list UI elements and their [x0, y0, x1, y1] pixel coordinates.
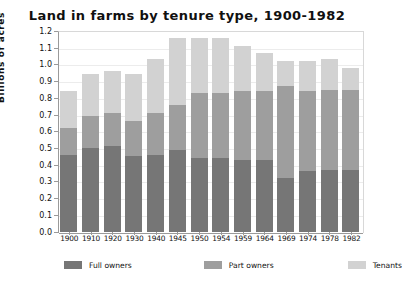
legend-item[interactable]: Tenants [348, 261, 402, 270]
bar-1945 [169, 31, 186, 232]
bar-segment [82, 116, 99, 148]
bar-segment [60, 91, 77, 128]
bar-segment [147, 155, 164, 232]
bar-1982 [342, 31, 359, 232]
x-tick-label: 1900 [60, 234, 77, 243]
bar-segment [191, 38, 208, 93]
x-tick-label: 1930 [125, 234, 142, 243]
y-tick-label: 0.7 [24, 110, 52, 119]
y-tick-label: 0.6 [24, 127, 52, 136]
bar-1910 [82, 31, 99, 232]
y-tick-label: 0.1 [24, 210, 52, 219]
bar-segment [277, 86, 294, 178]
bar-segment [342, 170, 359, 232]
y-tick-label: 1.1 [24, 43, 52, 52]
bar-segment [125, 156, 142, 231]
bar-segment [256, 53, 273, 91]
legend-label: Tenants [373, 261, 402, 270]
bar-1974 [299, 31, 316, 232]
bar-segment [147, 59, 164, 112]
bar-segment [256, 91, 273, 160]
bar-1930 [125, 31, 142, 232]
bar-segment [169, 150, 186, 232]
x-tick-label: 1945 [169, 234, 186, 243]
y-tick-label: 0.2 [24, 194, 52, 203]
bar-1969 [277, 31, 294, 232]
bar-segment [60, 155, 77, 232]
x-tick-label: 1978 [321, 234, 338, 243]
bar-segment [191, 93, 208, 158]
bar-segment [234, 91, 251, 160]
bar-1954 [212, 31, 229, 232]
legend-label: Full owners [89, 261, 132, 270]
chart-title: Land in farms by tenure type, 1900-1982 [0, 8, 374, 23]
y-tick-label: 0.3 [24, 177, 52, 186]
bar-1940 [147, 31, 164, 232]
bar-1950 [191, 31, 208, 232]
x-tick-label: 1910 [82, 234, 99, 243]
x-axis-ticks: 1900191019201930194019451950195419591964… [58, 234, 362, 243]
legend-label: Part owners [229, 261, 274, 270]
x-tick-label: 1959 [234, 234, 251, 243]
y-tick-label: 0.9 [24, 77, 52, 86]
bar-segment [104, 146, 121, 231]
legend-swatch [348, 261, 366, 269]
x-tick-label: 1954 [212, 234, 229, 243]
bar-segment [212, 158, 229, 232]
bar-segment [234, 160, 251, 232]
bar-segment [256, 160, 273, 232]
y-axis-label: Billions of acres [0, 12, 6, 103]
bar-segment [321, 170, 338, 232]
y-tick-label: 0.4 [24, 160, 52, 169]
chart-legend: Full ownersPart ownersTenants [58, 258, 362, 272]
bar-segment [125, 121, 142, 156]
bar-series-group [58, 31, 362, 232]
x-tick-label: 1964 [256, 234, 273, 243]
bar-segment [277, 178, 294, 231]
x-tick-label: 1940 [147, 234, 164, 243]
bar-1964 [256, 31, 273, 232]
bar-1920 [104, 31, 121, 232]
bar-segment [299, 171, 316, 231]
y-tick-label: 0.5 [24, 143, 52, 152]
y-tick-label: 1.2 [24, 27, 52, 36]
y-tick-label: 0.0 [24, 227, 52, 236]
bar-segment [212, 93, 229, 158]
bar-segment [342, 68, 359, 90]
bar-segment [234, 46, 251, 91]
x-tick-label: 1950 [191, 234, 208, 243]
bar-segment [104, 113, 121, 146]
x-tick-label: 1969 [277, 234, 294, 243]
x-tick-label: 1920 [104, 234, 121, 243]
bar-segment [191, 158, 208, 232]
bar-segment [277, 61, 294, 86]
y-tick-label: 1.0 [24, 60, 52, 69]
legend-swatch [204, 261, 222, 269]
legend-swatch [64, 261, 82, 269]
y-tick-label: 0.8 [24, 93, 52, 102]
bar-segment [147, 113, 164, 155]
bar-segment [299, 91, 316, 171]
bar-1959 [234, 31, 251, 232]
bar-segment [60, 128, 77, 155]
bar-segment [82, 148, 99, 232]
bar-segment [82, 74, 99, 116]
bar-segment [212, 38, 229, 93]
bar-segment [125, 74, 142, 121]
bar-segment [321, 59, 338, 89]
bar-1900 [60, 31, 77, 232]
x-tick-label: 1974 [299, 234, 316, 243]
legend-item[interactable]: Part owners [204, 261, 274, 270]
bar-segment [104, 71, 121, 113]
bar-segment [342, 90, 359, 170]
bar-segment [169, 105, 186, 150]
bar-1978 [321, 31, 338, 232]
legend-item[interactable]: Full owners [64, 261, 132, 270]
x-tick-label: 1982 [342, 234, 359, 243]
bar-segment [321, 90, 338, 170]
bar-segment [299, 61, 316, 91]
bar-segment [169, 38, 186, 105]
